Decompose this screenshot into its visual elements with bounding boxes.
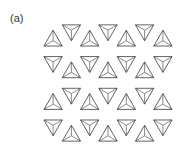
- tetrahedron: [62, 62, 80, 78]
- tetrahedron: [81, 120, 99, 136]
- tetrahedron: [154, 30, 172, 46]
- tetrahedron: [99, 88, 117, 104]
- tetrahedron: [117, 94, 135, 110]
- tetrahedron: [99, 62, 117, 78]
- tetrahedron: [44, 120, 62, 136]
- tetrahedron: [44, 57, 62, 73]
- kagome-lattice-diagram: [0, 0, 194, 158]
- tetrahedron: [62, 25, 80, 41]
- tetrahedron: [99, 25, 117, 41]
- tetrahedron: [154, 57, 172, 73]
- tetrahedron: [62, 88, 80, 104]
- tetrahedron: [99, 125, 117, 141]
- tetrahedron: [154, 94, 172, 110]
- tetrahedron: [135, 62, 153, 78]
- tetrahedron: [44, 94, 62, 110]
- tetrahedron: [117, 57, 135, 73]
- tetrahedron: [81, 30, 99, 46]
- tetrahedron: [81, 57, 99, 73]
- tetrahedron: [154, 120, 172, 136]
- tetrahedron: [117, 30, 135, 46]
- tetrahedron: [62, 125, 80, 141]
- tetrahedron: [135, 25, 153, 41]
- tetrahedron: [44, 30, 62, 46]
- tetrahedron: [135, 125, 153, 141]
- tetrahedron: [135, 88, 153, 104]
- tetrahedron: [81, 94, 99, 110]
- tetrahedron: [117, 120, 135, 136]
